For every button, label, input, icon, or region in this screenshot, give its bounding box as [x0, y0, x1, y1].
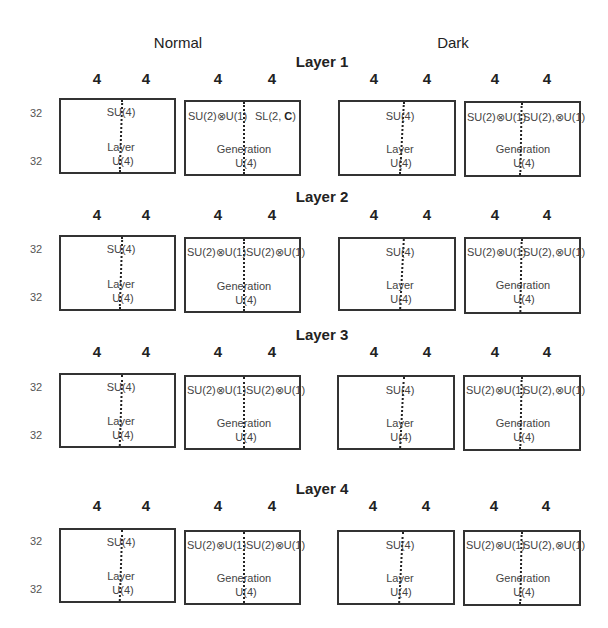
dark-layer-box: SU(4) Layer U(4) [338, 100, 456, 176]
box-name: Generation [217, 417, 271, 429]
bottom-group-label: U(4) [235, 157, 256, 169]
box-name: Layer [386, 417, 414, 429]
dark-generation-box: SU(2)⊗U(1) SU(2),⊗U(1) Generation U(4) [463, 530, 581, 606]
dim-label: 4 [142, 343, 150, 360]
box-name: Generation [496, 417, 550, 429]
top-group-label: SU(4) [386, 539, 415, 551]
normal-layer-box: SU(4) Layer U(4) [59, 373, 176, 448]
layer-title: Layer 2 [296, 188, 349, 205]
row-label: 32 [30, 535, 42, 547]
dim-label: 4 [214, 343, 222, 360]
dim-label: 4 [93, 343, 101, 360]
top-right-group-label: SU(2),⊗U(1) [523, 384, 585, 396]
normal-layer-box: SU(4) Layer U(4) [59, 235, 176, 311]
bottom-group-label: U(4) [235, 431, 256, 443]
box-name: Generation [496, 143, 550, 155]
top-left-group-label: SU(2)⊗U(1) [187, 384, 246, 396]
row-label: 32 [30, 583, 42, 595]
bottom-group-label: U(4) [390, 431, 411, 443]
row-label: 32 [30, 291, 42, 303]
top-right-group-label: SU(2),⊗U(1) [523, 246, 585, 258]
normal-generation-box: SU(2)⊗U(1) SL(2, C) Generation U(4) [184, 100, 301, 176]
top-left-group-label: SU(2)⊗U(1) [466, 539, 525, 551]
box-name: Generation [217, 143, 271, 155]
normal-generation-box: SU(2)⊗U(1) SU(2)⊗U(1) Generation U(4) [184, 237, 301, 313]
box-name: Generation [217, 280, 271, 292]
box-name: Layer [107, 141, 135, 153]
dim-label: 4 [370, 206, 378, 223]
column-header-normal: Normal [154, 34, 202, 51]
bottom-group-label: U(4) [513, 431, 534, 443]
dim-label: 4 [369, 497, 377, 514]
row-label: 32 [30, 381, 42, 393]
bottom-group-label: U(4) [112, 155, 133, 167]
top-left-group-label: SU(2)⊗U(1) [466, 384, 525, 396]
dim-label: 4 [543, 70, 551, 87]
dim-label: 4 [268, 343, 276, 360]
dim-label: 4 [491, 206, 499, 223]
column-header-dark: Dark [437, 34, 469, 51]
dim-label: 4 [422, 497, 430, 514]
dim-label: 4 [423, 206, 431, 223]
box-name: Layer [107, 415, 135, 427]
top-left-group-label: SU(2)⊗U(1) [187, 246, 246, 258]
bottom-group-label: U(4) [390, 293, 411, 305]
box-name: Layer [107, 278, 135, 290]
top-left-group-label: SU(2)⊗U(1) [187, 539, 246, 551]
top-group-label: SU(4) [386, 246, 415, 258]
dim-label: 4 [214, 70, 222, 87]
bottom-group-label: U(4) [235, 294, 256, 306]
normal-layer-box: SU(4) Layer U(4) [59, 98, 176, 174]
bottom-group-label: U(4) [112, 292, 133, 304]
dark-generation-box: SU(2)⊗U(1) SU(2),⊗U(1) Generation U(4) [464, 237, 581, 314]
dim-label: 4 [543, 343, 551, 360]
sl2-suffix: ) [292, 110, 296, 122]
bottom-group-label: U(4) [235, 586, 256, 598]
top-right-group-label: SU(2)⊗U(1) [246, 384, 305, 396]
bottom-group-label: U(4) [112, 584, 133, 596]
dim-label: 4 [423, 343, 431, 360]
dark-generation-box: SU(2)⊗U(1) SU(2),⊗U(1) Generation U(4) [464, 101, 581, 177]
dark-layer-box: SU(4) Layer U(4) [337, 530, 455, 605]
dark-layer-box: SU(4) Layer U(4) [337, 375, 455, 450]
top-right-group-label: SU(2)⊗U(1) [246, 539, 305, 551]
top-left-group-label: SU(2)⊗U(1) [467, 246, 526, 258]
dim-label: 4 [370, 70, 378, 87]
top-group-label: SU(4) [107, 106, 136, 118]
box-name: Layer [386, 572, 414, 584]
bottom-group-label: U(4) [112, 429, 133, 441]
top-right-group-label: SU(2),⊗U(1) [523, 539, 585, 551]
top-group-label: SU(4) [107, 243, 136, 255]
top-group-label: SU(4) [386, 384, 415, 396]
normal-layer-box: SU(4) Layer U(4) [59, 528, 176, 603]
layer-title: Layer 4 [296, 480, 349, 497]
top-group-label: SU(4) [386, 110, 415, 122]
normal-generation-box: SU(2)⊗U(1) SU(2)⊗U(1) Generation U(4) [184, 375, 301, 450]
box-name: Layer [386, 143, 414, 155]
dim-label: 4 [268, 497, 276, 514]
dim-label: 4 [542, 497, 550, 514]
layer-title: Layer 3 [296, 326, 349, 343]
box-name: Generation [496, 572, 550, 584]
sl2-prefix: SL(2, [255, 110, 284, 122]
layer-title: Layer 1 [296, 53, 349, 70]
dim-label: 4 [214, 497, 222, 514]
dim-label: 4 [491, 70, 499, 87]
bottom-group-label: U(4) [513, 586, 534, 598]
normal-generation-box: SU(2)⊗U(1) SU(2)⊗U(1) Generation U(4) [184, 530, 301, 605]
dim-label: 4 [214, 206, 222, 223]
dim-label: 4 [142, 206, 150, 223]
dim-label: 4 [268, 70, 276, 87]
bottom-group-label: U(4) [513, 157, 534, 169]
dim-label: 4 [93, 206, 101, 223]
box-name: Layer [107, 570, 135, 582]
dim-label: 4 [268, 206, 276, 223]
dim-label: 4 [491, 343, 499, 360]
top-group-label: SU(4) [107, 536, 136, 548]
dim-label: 4 [370, 343, 378, 360]
box-name: Generation [496, 279, 550, 291]
row-label: 32 [30, 243, 42, 255]
box-name: Layer [386, 279, 414, 291]
dim-label: 4 [93, 497, 101, 514]
bottom-group-label: U(4) [390, 157, 411, 169]
